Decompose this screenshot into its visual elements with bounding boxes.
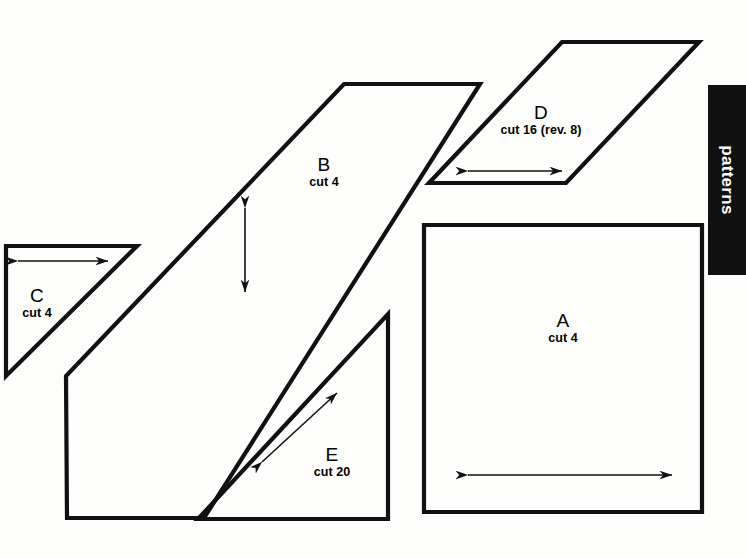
pattern-piece-b-cut-count: cut 4	[309, 175, 339, 190]
pattern-piece-e-label: E cut 20	[314, 446, 351, 480]
pattern-piece-d-letter: D	[500, 104, 581, 122]
pattern-piece-d-label: D cut 16 (rev. 8)	[500, 104, 581, 138]
pattern-piece-b-letter: B	[309, 156, 339, 174]
pattern-piece-e-cut-count: cut 20	[314, 465, 351, 480]
pattern-piece-a-cut-count: cut 4	[548, 331, 578, 346]
pattern-piece-c-letter: C	[22, 287, 52, 305]
pattern-piece-a-letter: A	[548, 312, 578, 330]
section-tab-patterns[interactable]: patterns	[708, 85, 746, 275]
pattern-piece-c-label: C cut 4	[22, 287, 52, 321]
pattern-piece-c-cut-count: cut 4	[22, 306, 52, 321]
pattern-piece-b-label: B cut 4	[309, 156, 339, 190]
pattern-pieces-canvas	[0, 0, 746, 558]
pattern-piece-a-outline	[424, 225, 702, 512]
pattern-piece-a-label: A cut 4	[548, 312, 578, 346]
pattern-sheet: A cut 4 B cut 4 C cut 4 D cut 16 (rev. 8…	[0, 0, 746, 558]
section-tab-label: patterns	[717, 145, 737, 214]
pattern-piece-e-outline	[198, 314, 388, 519]
pattern-piece-e-letter: E	[314, 446, 351, 464]
pattern-piece-d-cut-count: cut 16 (rev. 8)	[500, 123, 581, 138]
